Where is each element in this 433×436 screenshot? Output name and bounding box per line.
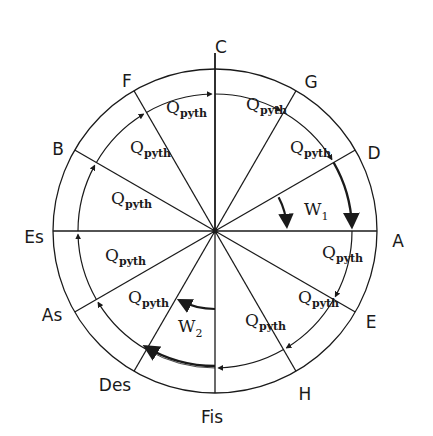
note-label-a: A — [392, 231, 404, 251]
q-pyth-label: Qpyth — [246, 94, 287, 117]
q-arc-des-as — [219, 350, 284, 368]
note-label-h: H — [299, 384, 312, 404]
q-pyth-label: Qpyth — [105, 245, 146, 268]
note-label-e: E — [366, 312, 377, 332]
center-point — [213, 229, 218, 234]
wolf-1-arc-inner — [279, 197, 287, 226]
diagram-canvas: CGDAEHFisDesAsEsBF QpythQpythQpythQpythQ… — [0, 0, 433, 436]
q-pyth-label: Qpyth — [166, 97, 207, 120]
q-pyth-label: Qpyth — [322, 242, 363, 265]
spoke-b — [75, 150, 215, 231]
q-arc-b-f — [78, 166, 95, 231]
note-label-b: B — [52, 139, 64, 159]
circle-of-fifths-diagram: CGDAEHFisDesAsEsBF QpythQpythQpythQpythQ… — [0, 0, 433, 436]
q-pyth-label: Qpyth — [130, 137, 171, 160]
wolf-arcs — [146, 163, 352, 369]
note-label-fis: Fis — [201, 407, 223, 427]
wolf-2-label: W2 — [178, 316, 202, 340]
wolf-1-label: W1 — [304, 199, 328, 223]
note-label-as: As — [42, 305, 63, 325]
q-pyth-label: Qpyth — [245, 310, 286, 333]
wolf-2-arc-outer — [146, 347, 216, 366]
note-label-es: Es — [24, 227, 44, 247]
q-arc-es-b — [78, 235, 96, 300]
note-label-des: Des — [99, 375, 132, 395]
wolf-2-arc-inner — [180, 301, 215, 310]
wolf-1-arc-outer — [334, 163, 352, 227]
q-pyth-label: Qpyth — [290, 137, 331, 160]
note-label-d: D — [367, 143, 380, 163]
note-label-g: G — [304, 72, 317, 92]
note-label-c: C — [215, 37, 227, 57]
spokes — [53, 53, 377, 393]
spoke-h — [215, 231, 296, 371]
q-arc-as-es — [98, 303, 146, 350]
note-label-f: F — [122, 71, 132, 91]
q-pyth-label: Qpyth — [128, 287, 169, 310]
